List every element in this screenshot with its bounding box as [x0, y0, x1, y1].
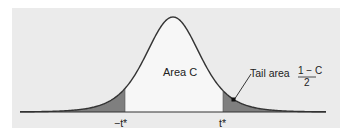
tail-pointer-marker: [232, 98, 236, 102]
tail-fraction-numerator: 1 − C: [298, 65, 322, 76]
left-critical-value: −t*: [114, 117, 127, 129]
t-distribution-diagram: Area C Tail area 1 − C 2 −t* t*: [0, 0, 352, 135]
center-area: [125, 17, 223, 112]
center-area-label: Area C: [163, 66, 197, 78]
tail-pointer-line: [234, 74, 251, 100]
left-tail-area: [20, 88, 125, 112]
right-critical-value: t*: [219, 117, 226, 129]
tail-fraction-denominator: 2: [304, 77, 310, 88]
tail-area-label: Tail area: [250, 67, 290, 79]
